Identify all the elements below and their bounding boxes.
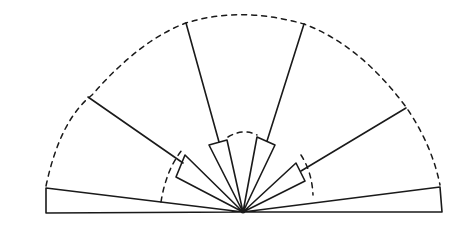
- center-point: [241, 209, 246, 214]
- inner-dashed-arc: [161, 132, 313, 202]
- fan-diagram-svg: [0, 0, 467, 229]
- ray-right-inner: [267, 24, 304, 141]
- ray-left-inner: [186, 23, 219, 142]
- wedge-right-inner: [243, 137, 275, 212]
- wedge-left-inner: [209, 140, 243, 212]
- ray-right-mid: [301, 108, 406, 171]
- fan-diagram: [0, 0, 467, 229]
- ray-left-mid: [88, 97, 183, 163]
- wedge-left-flat: [46, 188, 243, 213]
- wedge-right-flat: [243, 187, 442, 212]
- outer-dashed-arc: [46, 15, 440, 186]
